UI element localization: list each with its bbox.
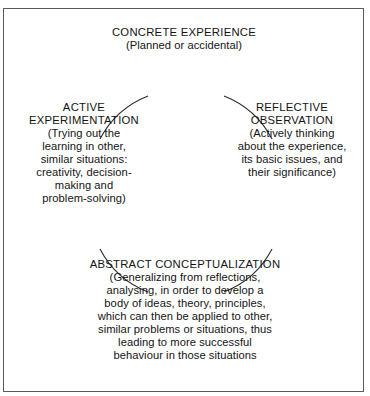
- stage-active-experimentation-title: ACTIVE EXPERIMENTATION: [8, 101, 160, 127]
- stage-active-experimentation-body: (Trying out the learning in other, simil…: [8, 127, 160, 205]
- stage-concrete-experience: CONCRETE EXPERIENCE (Planned or accident…: [64, 26, 304, 52]
- stage-reflective-observation-body: (Actively thinking about the experience,…: [216, 127, 368, 179]
- stage-active-experimentation: ACTIVE EXPERIMENTATION (Trying out the l…: [8, 101, 160, 205]
- stage-reflective-observation-title: REFLECTIVE OBSERVATION: [216, 101, 368, 127]
- stage-concrete-experience-title: CONCRETE EXPERIENCE: [64, 26, 304, 39]
- stage-reflective-observation: REFLECTIVE OBSERVATION (Actively thinkin…: [216, 101, 368, 179]
- stage-abstract-conceptualization: ABSTRACT CONCEPTUALIZATION (Generalizing…: [24, 258, 346, 362]
- stage-concrete-experience-body: (Planned or accidental): [64, 39, 304, 52]
- stage-abstract-conceptualization-body: (Generalizing from reflections, analysin…: [24, 271, 346, 362]
- diagram-frame: CONCRETE EXPERIENCE (Planned or accident…: [3, 8, 364, 392]
- stage-abstract-conceptualization-title: ABSTRACT CONCEPTUALIZATION: [24, 258, 346, 271]
